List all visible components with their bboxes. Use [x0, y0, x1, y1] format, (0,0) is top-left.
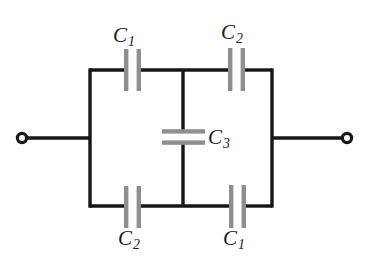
- label-c1-top-symbol: C: [113, 23, 128, 47]
- label-c1-bottom-symbol: C: [223, 226, 238, 250]
- capacitor-c1-bottom: [229, 185, 246, 228]
- capacitor-c2-bottom-plate-left: [124, 186, 128, 228]
- label-c2-top-symbol: C: [221, 20, 236, 44]
- label-capacitor-c1-bottom: C1: [223, 228, 245, 249]
- capacitor-c1-top: [124, 49, 141, 91]
- capacitor-c1-bottom-plate-left: [229, 185, 233, 228]
- label-capacitor-c2-bottom: C2: [118, 228, 140, 249]
- capacitor-c1-top-plate-left: [124, 49, 128, 91]
- label-capacitor-c3-middle: C3: [208, 127, 230, 148]
- label-capacitor-c1-top: C1: [113, 25, 135, 46]
- capacitor-c2-bottom: [124, 186, 141, 228]
- label-c3-symbol: C: [208, 125, 223, 149]
- label-c2-top-subscript: 2: [236, 31, 243, 46]
- label-capacitor-c2-top: C2: [221, 22, 243, 43]
- circuit-diagram: C1 C2 C3 C2 C1: [0, 0, 370, 270]
- label-c3-subscript: 3: [223, 136, 230, 151]
- label-c2-bottom-symbol: C: [118, 226, 133, 250]
- label-c1-top-subscript: 1: [128, 34, 135, 49]
- circuit-wires: [26, 68, 343, 207]
- capacitor-c1-top-plate-right: [137, 49, 141, 91]
- terminal-left: [17, 133, 26, 142]
- capacitor-c2-top-plate-left: [228, 48, 232, 91]
- capacitor-c3-plate-upper: [162, 129, 205, 133]
- capacitor-c2-top: [228, 48, 245, 91]
- capacitor-c2-top-plate-right: [241, 48, 245, 91]
- capacitor-c3-plate-lower: [162, 140, 205, 144]
- terminal-right: [342, 133, 351, 142]
- capacitor-c2-bottom-plate-right: [137, 186, 141, 228]
- circuit-schematic-svg: [0, 0, 370, 270]
- capacitor-c3-middle: [162, 129, 205, 145]
- label-c1-bottom-subscript: 1: [238, 237, 245, 252]
- label-c2-bottom-subscript: 2: [133, 237, 140, 252]
- capacitor-c1-bottom-plate-right: [242, 185, 246, 228]
